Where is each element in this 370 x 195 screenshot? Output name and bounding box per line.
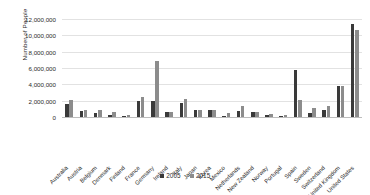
bar-group	[148, 19, 162, 117]
bar-group	[191, 19, 205, 117]
y-axis-tick-label: 6,000,000	[0, 65, 56, 72]
bar-2015	[84, 110, 88, 117]
bar-2005	[194, 110, 198, 117]
y-axis-tick-label: 8,000,000	[0, 48, 56, 55]
bar-group	[91, 19, 105, 117]
bar-2005	[122, 116, 126, 117]
bar-group	[76, 19, 90, 117]
bar-group	[176, 19, 190, 117]
bar-group	[291, 19, 305, 117]
bar-2005	[80, 111, 84, 117]
axis-baseline	[62, 117, 362, 118]
bar-group	[162, 19, 176, 117]
legend-label: 2005	[166, 172, 180, 179]
legend-item-2005[interactable]: 2005	[160, 172, 181, 179]
bar-group	[133, 19, 147, 117]
bar-chart: Number of People 02,000,0004,000,0006,00…	[0, 0, 370, 195]
y-axis-tick-label: 10,000,000	[0, 32, 56, 39]
y-axis-tick-label: 4,000,000	[0, 81, 56, 88]
bar-group	[262, 19, 276, 117]
bar-2015	[198, 110, 202, 117]
bar-2005	[322, 110, 326, 117]
bar-group	[248, 19, 262, 117]
bar-2015	[212, 110, 216, 117]
bar-2005	[265, 115, 269, 117]
y-axis-tick-label: 2,000,000	[0, 97, 56, 104]
bar-2015	[184, 99, 188, 117]
legend-item-2015[interactable]: 2015	[190, 172, 211, 179]
bar-2015	[141, 97, 145, 117]
bar-2005	[351, 24, 355, 117]
bar-group	[276, 19, 290, 117]
bar-group	[305, 19, 319, 117]
y-axis-title: Number of People	[21, 0, 28, 85]
bar-2005	[294, 70, 298, 117]
bar-2005	[237, 111, 241, 117]
bar-group	[233, 19, 247, 117]
bar-groups	[62, 19, 362, 117]
bar-2005	[94, 113, 98, 117]
bar-group	[219, 19, 233, 117]
x-axis-labels: AustraliaAustriaBelgiumDenmarkFinlandFra…	[62, 119, 362, 171]
bar-group	[105, 19, 119, 117]
plot-area: 02,000,0004,000,0006,000,0008,000,00010,…	[62, 19, 362, 117]
chart-legend: 20052015	[0, 172, 370, 179]
bar-2015	[227, 113, 231, 117]
bar-2005	[279, 116, 283, 117]
bar-2015	[98, 110, 102, 117]
legend-swatch-icon	[160, 174, 164, 178]
bar-2005	[108, 115, 112, 117]
bar-2005	[222, 116, 226, 117]
bar-2015	[327, 106, 331, 117]
bar-2005	[137, 101, 141, 117]
bar-2015	[155, 61, 159, 117]
bar-group	[119, 19, 133, 117]
bar-2005	[151, 101, 155, 117]
bar-2015	[169, 112, 173, 117]
bar-2005	[337, 86, 341, 117]
bar-2015	[69, 100, 73, 117]
bar-2005	[208, 110, 212, 117]
bar-2015	[355, 30, 359, 117]
bar-2015	[298, 100, 302, 117]
y-axis-tick-label: 12,000,000	[0, 16, 56, 23]
bar-2015	[127, 115, 131, 117]
bar-group	[319, 19, 333, 117]
bar-2005	[180, 103, 184, 117]
bar-2015	[269, 114, 273, 117]
bar-2015	[312, 108, 316, 117]
bar-2005	[165, 112, 169, 117]
bar-2005	[251, 112, 255, 117]
bar-2015	[241, 106, 245, 117]
bar-group	[205, 19, 219, 117]
bar-2015	[112, 112, 116, 117]
bar-group	[348, 19, 362, 117]
bar-group	[333, 19, 347, 117]
y-axis-tick-label: 0	[0, 114, 56, 121]
bar-2015	[341, 86, 345, 117]
bar-2015	[255, 112, 259, 117]
bar-group	[62, 19, 76, 117]
bar-2005	[308, 113, 312, 117]
legend-swatch-icon	[190, 174, 194, 178]
bar-2005	[65, 104, 69, 117]
bar-2015	[284, 115, 288, 117]
legend-label: 2015	[196, 172, 210, 179]
